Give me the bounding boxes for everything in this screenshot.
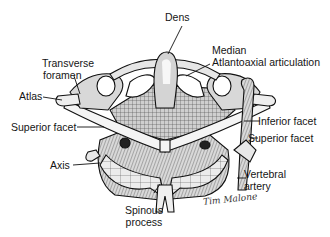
label-spinous-line2: process (119, 216, 169, 228)
label-transverse-line2: foramen (43, 69, 82, 81)
label-spinous-line1: Spinous (119, 204, 169, 216)
label-superior-facet-right: Superior facet (248, 132, 313, 144)
label-vertebral-line2: artery (244, 180, 271, 192)
label-axis: Axis (50, 159, 70, 171)
label-superior-facet-left: Superior facet (11, 121, 76, 133)
dens (154, 52, 177, 108)
label-vertebral-line1: Vertebral (244, 168, 286, 180)
label-dens: Dens (165, 11, 190, 23)
label-transverse-line1: Transverse (42, 57, 94, 69)
label-median-line2: Atlantoaxial articulation (212, 56, 320, 68)
diagram-figure: Dens Median Atlantoaxial articulation Tr… (0, 0, 330, 237)
label-inferior-facet: Inferior facet (258, 115, 316, 127)
label-median-line1: Median (212, 44, 246, 56)
label-atlas: Atlas (19, 90, 42, 102)
